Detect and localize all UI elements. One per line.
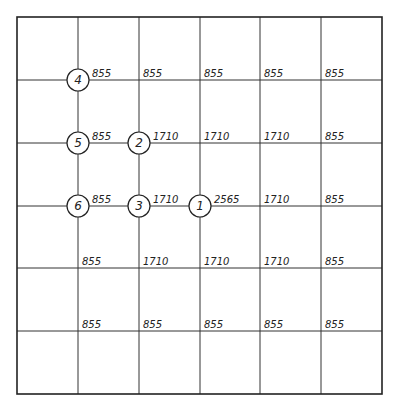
load-value: 855: [82, 319, 101, 330]
load-value: 855: [325, 256, 344, 267]
load-value: 855: [264, 319, 283, 330]
load-value: 855: [325, 194, 344, 205]
node-1: 1: [189, 195, 211, 217]
node-4: 4: [67, 69, 89, 91]
load-value: 855: [325, 68, 344, 79]
load-value: 1710: [153, 131, 178, 142]
node-label: 4: [74, 73, 82, 87]
node-5: 5: [67, 132, 89, 154]
load-value: 855: [204, 319, 223, 330]
node-2: 2: [128, 132, 150, 154]
load-value: 1710: [153, 194, 178, 205]
node-label: 3: [135, 199, 143, 213]
node-label: 6: [74, 199, 82, 213]
load-value: 855: [92, 194, 111, 205]
node-label: 5: [74, 136, 82, 150]
load-value: 1710: [264, 131, 289, 142]
load-value: 855: [92, 68, 111, 79]
load-value: 855: [204, 68, 223, 79]
load-value: 855: [143, 68, 162, 79]
node-label: 2: [135, 136, 143, 150]
load-value: 855: [325, 131, 344, 142]
load-value: 1710: [264, 256, 289, 267]
node-label: 1: [196, 199, 204, 213]
load-value: 1710: [204, 131, 229, 142]
load-value: 2565: [214, 194, 239, 205]
node-6: 6: [67, 195, 89, 217]
load-value: 855: [143, 319, 162, 330]
grid-diagram: 8558558558558558551710171017108558551710…: [0, 0, 396, 409]
load-value: 855: [82, 256, 101, 267]
load-value: 1710: [204, 256, 229, 267]
load-value: 855: [264, 68, 283, 79]
value-labels: 8558558558558558551710171017108558551710…: [82, 68, 344, 330]
load-value: 1710: [143, 256, 168, 267]
load-value: 855: [92, 131, 111, 142]
load-value: 855: [325, 319, 344, 330]
node-3: 3: [128, 195, 150, 217]
load-value: 1710: [264, 194, 289, 205]
